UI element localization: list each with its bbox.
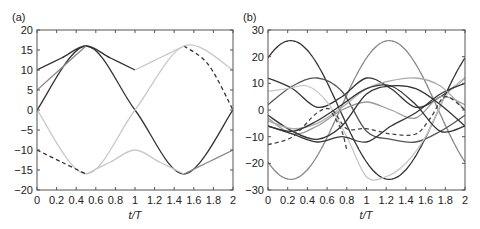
series-s4: [268, 78, 465, 143]
y-tick-label: 20: [252, 51, 264, 63]
panel-a: (a) 20151050−10−5−15−20 00.20.40.60.811.…: [12, 11, 236, 221]
y-tick-label: 15: [21, 44, 33, 56]
figure: (a) 20151050−10−5−15−20 00.20.40.60.811.…: [0, 0, 480, 229]
y-tick-label: −20: [245, 157, 264, 169]
x-tick-label: 1.6: [186, 194, 201, 206]
y-tick-label: −20: [14, 184, 33, 196]
x-tick-label: 1: [363, 194, 369, 206]
x-tick-label: 1.4: [167, 194, 182, 206]
panel-b: (b) 3020100−10−20−30 00.20.40.60.811.21.…: [243, 11, 468, 221]
x-tick-label: 1: [132, 194, 138, 206]
panel-b-plot-area: [268, 41, 465, 180]
series-s1: [268, 41, 465, 180]
series-upper-envelope-dashed: [184, 46, 233, 110]
x-tick-label: 0.4: [300, 194, 315, 206]
panel-b-y-axis: 3020100−10−20−30: [245, 24, 465, 196]
y-tick-label: −10: [14, 144, 33, 156]
x-tick-label: 0.8: [108, 194, 123, 206]
panel-b-x-axis: 00.20.40.60.811.21.41.61.82: [265, 30, 468, 206]
panel-b-label: (b): [243, 11, 256, 23]
panel-a-plot-area: [37, 45, 233, 174]
y-tick-label: 0: [27, 104, 33, 116]
y-tick-label: 5: [27, 84, 33, 96]
x-tick-label: 1.4: [398, 194, 413, 206]
y-tick-label: 0: [258, 104, 264, 116]
series-s2: [268, 41, 465, 180]
y-tick-label: 10: [21, 64, 33, 76]
x-tick-label: 1.8: [206, 194, 221, 206]
panel-a-y-axis: 20151050−10−5−15−20: [14, 24, 233, 196]
y-tick-label: 20: [21, 24, 33, 36]
x-tick-label: 0.2: [49, 194, 64, 206]
x-tick-label: 0.8: [339, 194, 354, 206]
x-tick-label: 1.2: [147, 194, 162, 206]
y-tick-label: −30: [245, 184, 264, 196]
x-tick-label: 0: [265, 194, 271, 206]
y-tick-label: −15: [14, 164, 33, 176]
x-tick-label: 0.6: [88, 194, 103, 206]
series-upper-envelope-dark: [37, 46, 135, 70]
x-tick-label: 2: [462, 194, 468, 206]
y-tick-label: 10: [252, 77, 264, 89]
panel-a-label: (a): [12, 11, 25, 23]
y-tick-label: −5: [20, 124, 33, 136]
series-mid-gray-rise: [37, 46, 86, 90]
x-tick-label: 2: [230, 194, 236, 206]
x-tick-label: 0.4: [69, 194, 84, 206]
x-tick-label: 0: [34, 194, 40, 206]
series-lower-envelope-light: [86, 150, 184, 174]
y-tick-label: −10: [245, 131, 264, 143]
y-tick-label: 30: [252, 24, 264, 36]
panel-a-xlabel: t/T: [129, 209, 143, 221]
x-tick-label: 1.6: [418, 194, 433, 206]
series-upper-envelope-light: [135, 46, 184, 70]
panel-b-frame: [268, 30, 465, 190]
x-tick-label: 1.8: [438, 194, 453, 206]
x-tick-label: 0.2: [280, 194, 295, 206]
x-tick-label: 1.2: [379, 194, 394, 206]
panel-b-xlabel: t/T: [360, 209, 374, 221]
x-tick-label: 0.6: [319, 194, 334, 206]
series-lower-envelope-gray: [184, 150, 233, 174]
